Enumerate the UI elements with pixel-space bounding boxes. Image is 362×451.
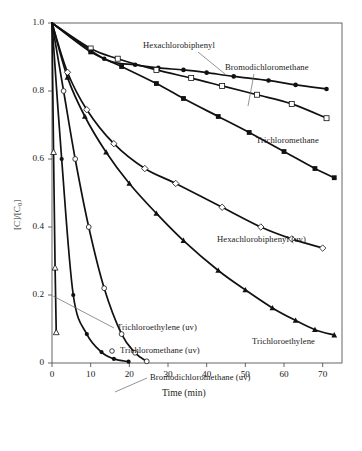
data-point-marker — [52, 265, 58, 270]
data-point-marker — [119, 64, 124, 69]
data-point-marker — [60, 157, 64, 161]
curves-layer — [52, 23, 334, 362]
series-line — [52, 23, 129, 362]
markers-layer — [51, 46, 338, 364]
data-point-marker — [73, 157, 78, 162]
data-point-marker — [332, 175, 337, 180]
x-tick-label: 70 — [303, 369, 343, 379]
y-tick-label: 0.6 — [0, 153, 44, 163]
y-axis-label: [C]/[C₀] — [12, 200, 22, 230]
data-point-marker — [219, 204, 225, 210]
ann-hexachlorobiphenyl: Hexachlorobiphenyl — [143, 41, 215, 50]
x-axis-label: Time (min) — [162, 387, 206, 398]
data-point-marker — [324, 87, 329, 92]
ann-bromodichloromethane-uv: Bromodichloromethane (uv) — [150, 373, 251, 382]
data-point-marker — [51, 149, 57, 154]
data-point-marker — [126, 360, 130, 364]
data-point-marker — [102, 286, 107, 291]
ann-trichloroethylene-uv-leader — [53, 296, 114, 328]
data-point-marker — [53, 329, 59, 334]
chart-figure: 00.20.40.60.81.0 010203040506070 Hexachl… — [0, 0, 362, 451]
axes-layer — [48, 23, 342, 367]
data-point-marker — [86, 225, 91, 230]
data-point-marker — [258, 224, 264, 230]
data-point-marker — [220, 83, 225, 88]
ann-trichloroethylene-uv: Trichloroethylene (uv) — [117, 323, 197, 332]
y-tick-label: 0.4 — [0, 221, 44, 231]
data-point-marker — [112, 357, 116, 361]
data-point-marker — [154, 67, 159, 72]
data-point-marker — [88, 50, 93, 55]
data-point-marker — [181, 96, 186, 101]
data-point-marker — [216, 114, 221, 119]
data-point-marker — [71, 293, 75, 297]
ann-bromodichloromethane: Bromodichloromethane — [225, 63, 309, 72]
ann-trichloromethane-uv: Trichloromethane (uv) — [120, 346, 200, 355]
data-point-marker — [154, 81, 159, 86]
data-point-marker — [181, 68, 186, 73]
data-point-marker — [133, 63, 138, 68]
data-point-marker — [99, 350, 103, 354]
data-point-marker — [204, 70, 209, 75]
ann-hexachlorobiphenyl-leader — [198, 52, 225, 74]
data-point-marker — [231, 74, 236, 79]
data-point-marker — [254, 92, 259, 97]
data-point-marker — [266, 78, 271, 83]
x-tick-label: 0 — [32, 369, 72, 379]
data-point-marker — [293, 83, 298, 88]
data-point-marker — [282, 149, 287, 154]
ann-trichloromethane: Trichloromethane — [256, 136, 319, 145]
data-point-marker — [319, 245, 325, 251]
ann-hexachlorobiphenyl-uv: Hexachlorobiphenyl (uv) — [217, 235, 306, 244]
data-point-marker — [247, 130, 252, 135]
data-point-marker — [189, 76, 194, 81]
data-point-marker — [61, 89, 66, 94]
data-point-marker — [85, 332, 89, 336]
data-point-marker — [115, 56, 120, 61]
data-point-marker — [313, 166, 318, 171]
y-tick-label: 0 — [0, 357, 44, 367]
x-tick-label: 10 — [71, 369, 111, 379]
x-tick-label: 60 — [264, 369, 304, 379]
ann-trichloroethylene: Trichloroethylene — [252, 337, 315, 346]
x-tick-label: 20 — [109, 369, 149, 379]
trichloromethane-uv-marker-key — [110, 349, 115, 354]
data-point-marker — [119, 332, 124, 337]
ann-bromodichloromethane-uv-leader — [115, 378, 147, 392]
data-point-marker — [102, 56, 107, 61]
data-point-marker — [324, 116, 329, 121]
y-tick-label: 0.8 — [0, 85, 44, 95]
data-point-marker — [289, 101, 294, 106]
y-tick-label: 0.2 — [0, 289, 44, 299]
data-point-marker — [144, 359, 149, 364]
data-point-marker — [173, 180, 179, 186]
y-tick-label: 1.0 — [0, 17, 44, 27]
